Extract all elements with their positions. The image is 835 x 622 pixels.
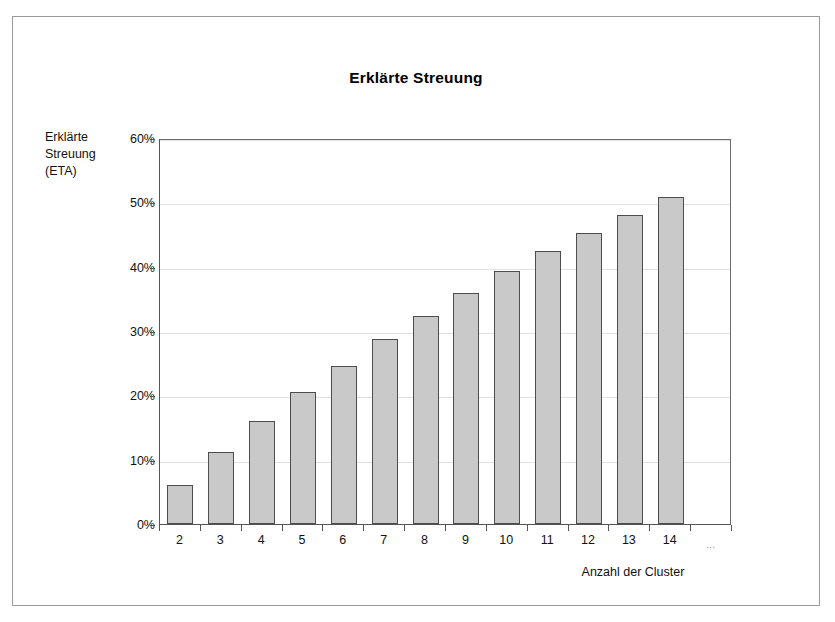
y-axis-ticks: 60%50%40%30%20%10%0% — [105, 139, 155, 525]
x-tick-mark — [608, 525, 609, 531]
x-tick-mark — [200, 525, 201, 531]
bar — [535, 251, 561, 524]
x-tick-label: 12 — [568, 533, 608, 547]
x-tick-label: 11 — [527, 533, 567, 547]
y-tick-mark — [150, 203, 155, 204]
x-tick-mark — [322, 525, 323, 531]
bar — [658, 197, 684, 524]
x-axis-tick-labels: 234567891011121314... — [159, 533, 731, 555]
y-tick-label: 40% — [111, 261, 155, 275]
y-tick-mark — [150, 461, 155, 462]
x-tick-label: 7 — [364, 533, 404, 547]
y-tick-label: 10% — [111, 454, 155, 468]
bar — [576, 233, 602, 524]
y-tick-label: 30% — [111, 325, 155, 339]
bar — [413, 316, 439, 524]
y-tick-label: 50% — [111, 196, 155, 210]
x-tick-label: 13 — [609, 533, 649, 547]
x-tick-label: 2 — [159, 533, 199, 547]
chart-outer-frame: Erklärte Streuung Erklärte Streuung (ETA… — [12, 16, 820, 606]
chart-screenshot: Erklärte Streuung Erklärte Streuung (ETA… — [0, 0, 835, 622]
bar — [208, 452, 234, 524]
x-tick-mark — [486, 525, 487, 531]
x-tick-mark — [404, 525, 405, 531]
x-tick-mark — [731, 525, 732, 531]
y-tick-mark — [150, 332, 155, 333]
bar — [331, 366, 357, 524]
x-tick-mark — [445, 525, 446, 531]
bar — [249, 421, 275, 524]
x-tick-mark — [568, 525, 569, 531]
x-tick-label: 5 — [282, 533, 322, 547]
x-axis-ticks — [159, 525, 731, 533]
y-tick-label: 0% — [111, 518, 155, 532]
x-tick-label: 14 — [650, 533, 690, 547]
bar — [453, 293, 479, 524]
x-tick-label: ... — [691, 538, 731, 550]
x-tick-mark — [282, 525, 283, 531]
y-tick-mark — [150, 525, 155, 526]
x-tick-label: 10 — [486, 533, 526, 547]
x-tick-mark — [241, 525, 242, 531]
bar — [494, 271, 520, 524]
x-tick-mark — [159, 525, 160, 531]
x-tick-label: 3 — [200, 533, 240, 547]
bar — [617, 215, 643, 524]
y-tick-label: 20% — [111, 389, 155, 403]
x-tick-label: 9 — [445, 533, 485, 547]
x-tick-label: 4 — [241, 533, 281, 547]
plot-area — [159, 139, 731, 525]
bar — [167, 485, 193, 524]
chart-title: Erklärte Streuung — [13, 69, 819, 87]
y-tick-mark — [150, 268, 155, 269]
x-tick-label: 6 — [323, 533, 363, 547]
y-tick-label: 60% — [111, 132, 155, 146]
x-tick-mark — [649, 525, 650, 531]
bar — [372, 339, 398, 524]
bars-layer — [160, 140, 730, 524]
y-tick-mark — [150, 139, 155, 140]
x-tick-label: 8 — [405, 533, 445, 547]
x-tick-mark — [527, 525, 528, 531]
bar — [290, 392, 316, 524]
y-tick-mark — [150, 396, 155, 397]
x-tick-mark — [690, 525, 691, 531]
x-axis-title: Anzahl der Cluster — [503, 565, 763, 579]
x-tick-mark — [363, 525, 364, 531]
